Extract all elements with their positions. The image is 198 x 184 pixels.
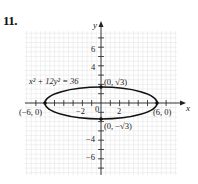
origin-label: 0 [95, 104, 99, 114]
y-tick-label-neg6: −6 [86, 152, 95, 162]
equation-label: x² + 12y² = 36 [28, 76, 79, 86]
point-label-left: (−6, 0) [19, 107, 42, 117]
point-left-vertex [43, 101, 47, 105]
point-bottom-covertex [99, 117, 103, 121]
y-tick-label-6: 6 [91, 44, 95, 54]
x-tick-label-2: 2 [117, 106, 121, 116]
y-tick-label-neg4: −4 [86, 134, 96, 144]
point-label-bottom: (0, −√3) [104, 121, 132, 131]
point-label-top: (0, √3) [104, 77, 127, 87]
ellipse-graph: x y 6 4 −4 −6 −2 2 0 x² + 12y² = 36 (−6,… [0, 0, 198, 184]
point-label-right: (6, 0) [153, 107, 172, 117]
point-right-vertex [155, 101, 159, 105]
y-axis-label: y [92, 20, 97, 30]
point-top-covertex [99, 85, 103, 89]
x-tick-label-neg2: −2 [76, 106, 85, 116]
y-axis-arrow-icon [99, 21, 104, 27]
x-axis-label: x [185, 103, 190, 113]
